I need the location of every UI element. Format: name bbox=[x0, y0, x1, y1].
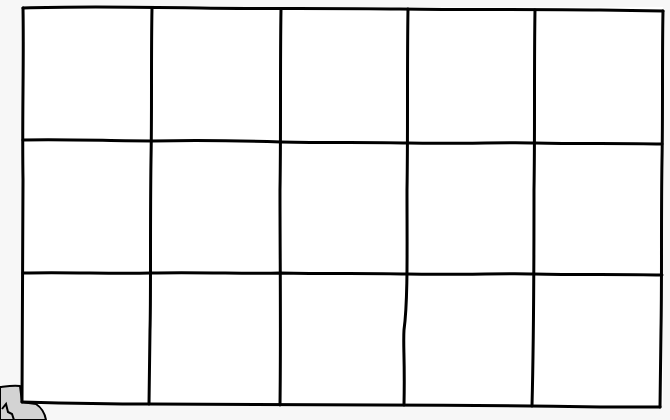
grid-cell bbox=[535, 8, 663, 141]
grid-cell bbox=[23, 8, 152, 141]
hand-drawn-grid-page bbox=[0, 0, 670, 420]
grid-cell bbox=[408, 141, 535, 274]
grid-cell bbox=[408, 8, 535, 141]
grid-cell bbox=[408, 274, 535, 405]
grid-cell bbox=[152, 274, 281, 405]
grid-cell bbox=[535, 141, 663, 274]
grid-cell bbox=[152, 141, 281, 274]
grid-cell bbox=[281, 141, 408, 274]
grid-cell bbox=[23, 274, 152, 405]
grid-cell bbox=[281, 274, 408, 405]
grid-cell bbox=[152, 8, 281, 141]
grid-cell bbox=[23, 141, 152, 274]
grid-cell bbox=[535, 274, 663, 405]
grid-cell bbox=[281, 8, 408, 141]
grid-cells bbox=[23, 8, 663, 405]
